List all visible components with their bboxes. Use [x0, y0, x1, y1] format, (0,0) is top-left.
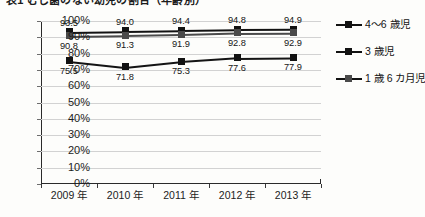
series-line-segment: [125, 30, 181, 33]
y-axis-tick: [37, 103, 41, 104]
data-point-marker: [122, 63, 129, 70]
x-axis-label: 2012 年: [209, 190, 265, 201]
series-line-segment: [237, 29, 293, 31]
legend-marker-icon: [345, 75, 352, 82]
legend-label: 1 歳 6 カ月児: [365, 72, 425, 84]
data-label: 77.9: [276, 62, 310, 72]
data-label: 94.0: [108, 17, 142, 27]
data-label: 91.9: [164, 39, 198, 49]
data-label: 91.3: [108, 40, 142, 50]
x-axis-tick: [97, 184, 98, 188]
data-point-marker: [234, 29, 241, 36]
x-axis-tick: [265, 184, 266, 188]
y-axis-label: 20%: [54, 145, 90, 156]
data-label: 92.9: [276, 38, 310, 48]
x-axis-label: 2011 年: [153, 190, 209, 201]
data-point-marker: [178, 58, 185, 65]
y-axis-tick: [37, 37, 41, 38]
chart-title-clipped: 表1 むし歯のない幼児の割合（年齢別）: [6, 0, 336, 7]
data-point-marker: [122, 32, 129, 39]
legend-label: 4〜6 歳児: [365, 18, 410, 30]
y-axis-label: 50%: [54, 97, 90, 108]
y-axis-label: 40%: [54, 113, 90, 124]
legend-item[interactable]: 4〜6 歳児: [336, 16, 416, 43]
y-axis-tick: [37, 119, 41, 120]
data-label: 94.4: [164, 16, 198, 26]
x-axis-label: 2009 年: [41, 190, 97, 201]
y-axis-label: 70%: [54, 64, 90, 75]
y-axis-label: 30%: [54, 129, 90, 140]
data-label: 77.6: [220, 63, 254, 73]
y-axis-label: 80%: [54, 48, 90, 59]
y-axis-tick: [37, 135, 41, 136]
x-axis-label: 2010 年: [97, 190, 153, 201]
y-axis-label: 60%: [54, 80, 90, 91]
y-axis-tick: [37, 151, 41, 152]
series-line-segment: [181, 29, 237, 32]
data-label: 71.8: [108, 72, 142, 82]
series-line-segment: [181, 33, 237, 36]
x-axis-tick: [321, 184, 322, 188]
y-axis-tick: [37, 54, 41, 55]
chart-legend: 4〜6 歳児3 歳児1 歳 6 カ月児: [336, 16, 416, 97]
chart-title-text: 表1 むし歯のない幼児の割合（年齢別）: [6, 0, 336, 6]
series-line-segment: [237, 33, 293, 35]
legend-item[interactable]: 3 歳児: [336, 43, 416, 70]
x-axis-label: 2013 年: [265, 190, 321, 201]
y-axis-tick: [37, 70, 41, 71]
x-axis-tick: [209, 184, 210, 188]
y-axis-label: 0%: [54, 178, 90, 189]
y-axis-tick: [37, 21, 41, 22]
legend-item[interactable]: 1 歳 6 カ月児: [336, 70, 416, 97]
x-axis-tick: [41, 184, 42, 188]
legend-marker-icon: [345, 48, 352, 55]
y-axis-tick: [37, 86, 41, 87]
data-point-marker: [290, 54, 297, 61]
x-axis-tick: [153, 184, 154, 188]
y-axis-label: 90%: [54, 31, 90, 42]
data-label: 94.9: [276, 15, 310, 25]
data-label: 92.8: [220, 38, 254, 48]
data-label: 75.3: [164, 66, 198, 76]
data-point-marker: [234, 54, 241, 61]
data-point-marker: [178, 31, 185, 38]
series-line-segment: [237, 57, 293, 59]
data-label: 94.8: [220, 15, 254, 25]
y-axis-tick: [37, 168, 41, 169]
legend-marker-icon: [345, 21, 352, 28]
data-point-marker: [290, 29, 297, 36]
legend-label: 3 歳児: [365, 45, 394, 57]
y-axis-label: 10%: [54, 162, 90, 173]
y-axis-label: 100%: [54, 15, 90, 26]
